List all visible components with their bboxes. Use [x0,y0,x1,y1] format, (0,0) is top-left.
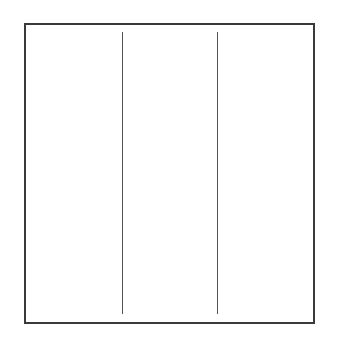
outer-rectangle [24,23,315,324]
divider-line-1 [122,32,123,314]
divider-line-2 [217,32,218,314]
